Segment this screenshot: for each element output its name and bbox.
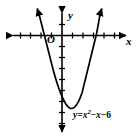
origin-label: O xyxy=(47,34,55,45)
curve-end-arrow-left xyxy=(37,9,39,17)
equation-term3: 6 xyxy=(106,110,111,120)
equation-curve-label: y=x2−x−6 xyxy=(73,109,111,121)
parabola-graph-figure: O x y y=x2−x−6 xyxy=(0,0,140,139)
parabola-curve xyxy=(38,12,100,109)
x-axis-label: x xyxy=(126,36,132,47)
y-axis-label: y xyxy=(68,10,73,21)
x-axis xyxy=(13,33,126,39)
curve-end-arrow-right xyxy=(99,9,101,17)
y-axis xyxy=(59,13,65,132)
